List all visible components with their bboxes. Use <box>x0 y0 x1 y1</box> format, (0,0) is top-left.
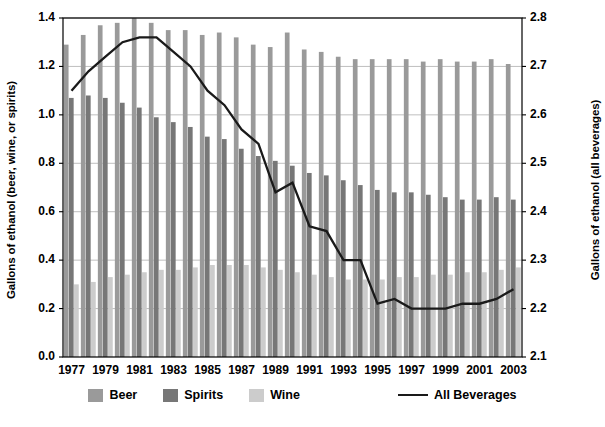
y-tick-label-left: 1.2 <box>21 58 55 72</box>
bar-beer-1995 <box>370 59 375 357</box>
bar-wine-1995 <box>380 280 385 357</box>
bar-beer-1986 <box>217 33 222 357</box>
bar-beer-1977 <box>64 45 69 357</box>
bar-wine-2000 <box>465 272 470 357</box>
bar-wine-1998 <box>431 275 436 357</box>
legend-item-wine: Wine <box>249 388 300 402</box>
legend-item-all-beverages: All Beverages <box>398 388 517 402</box>
bar-spirits-2001 <box>477 200 482 357</box>
y-tick-label-right: 2.6 <box>530 107 570 121</box>
legend-swatch-icon <box>163 389 178 402</box>
bar-beer-1992 <box>319 52 324 357</box>
legend-label: Beer <box>109 388 137 402</box>
bar-spirits-1978 <box>86 95 91 357</box>
bar-spirits-1987 <box>239 149 244 357</box>
bar-spirits-2003 <box>511 200 516 357</box>
chart-legend: BeerSpiritsWineAll Beverages <box>0 388 605 402</box>
legend-label: All Beverages <box>434 388 517 402</box>
bar-beer-2003 <box>506 64 511 357</box>
bar-spirits-1981 <box>137 108 142 357</box>
bar-beer-1982 <box>149 23 154 357</box>
bar-spirits-1988 <box>256 156 261 357</box>
y-tick-label-right: 2.1 <box>530 349 570 363</box>
bar-beer-1997 <box>404 59 409 357</box>
bar-spirits-1979 <box>103 98 108 357</box>
bar-wine-1981 <box>142 272 147 357</box>
bar-beer-2002 <box>489 59 494 357</box>
chart-container: Gallons of ethanol (beer, wine, or spiri… <box>0 0 605 427</box>
bar-spirits-1991 <box>307 173 312 357</box>
y-tick-label-right: 2.4 <box>530 204 570 218</box>
bar-spirits-1999 <box>443 197 448 357</box>
y-tick-label-right: 2.8 <box>530 10 570 24</box>
bar-spirits-2000 <box>460 200 465 357</box>
bar-spirits-1992 <box>324 175 329 357</box>
bar-spirits-1998 <box>426 195 431 357</box>
y-tick-label-left: 1.0 <box>21 107 55 121</box>
y-tick-label-left: 1.4 <box>21 10 55 24</box>
x-tick-label-2003: 2003 <box>491 363 537 377</box>
bar-spirits-1990 <box>290 166 295 357</box>
bar-beer-1979 <box>98 25 103 357</box>
y-tick-label-left: 0.4 <box>21 252 55 266</box>
bar-spirits-1986 <box>222 139 227 357</box>
bar-wine-1984 <box>193 267 198 357</box>
bar-wine-1997 <box>414 277 419 357</box>
bar-wine-1989 <box>278 270 283 357</box>
bar-spirits-1995 <box>375 190 380 357</box>
y-tick-label-left: 0.6 <box>21 204 55 218</box>
bar-wine-1986 <box>227 265 232 357</box>
bar-beer-1991 <box>302 49 307 357</box>
bar-spirits-2002 <box>494 197 499 357</box>
bar-spirits-1984 <box>188 127 193 357</box>
bar-spirits-1994 <box>358 185 363 357</box>
bar-beer-1981 <box>132 18 137 357</box>
legend-label: Wine <box>270 388 300 402</box>
legend-item-spirits: Spirits <box>163 388 223 402</box>
bar-beer-1983 <box>166 30 171 357</box>
bar-beer-1993 <box>336 57 341 357</box>
legend-swatch-icon <box>88 389 103 402</box>
bar-spirits-1997 <box>409 192 414 357</box>
bar-beer-1984 <box>183 30 188 357</box>
bar-beer-2000 <box>455 62 460 357</box>
legend-line-icon <box>398 394 428 396</box>
bar-wine-2003 <box>516 267 521 357</box>
y-tick-label-right: 2.7 <box>530 58 570 72</box>
bar-wine-1992 <box>329 277 334 357</box>
y-tick-label-left: 0.0 <box>21 349 55 363</box>
legend-item-beer: Beer <box>88 388 137 402</box>
bar-beer-1989 <box>268 47 273 357</box>
bar-beer-1988 <box>251 45 256 357</box>
bar-wine-1980 <box>125 275 130 357</box>
bar-beer-1999 <box>438 59 443 357</box>
bar-beer-1980 <box>115 23 120 357</box>
bar-wine-1979 <box>108 277 113 357</box>
bar-wine-1988 <box>261 267 266 357</box>
bar-beer-1987 <box>234 37 239 357</box>
bar-wine-1994 <box>363 280 368 357</box>
bar-spirits-1980 <box>120 103 125 357</box>
y-tick-label-left: 0.2 <box>21 301 55 315</box>
bar-beer-1990 <box>285 33 290 357</box>
bar-spirits-1993 <box>341 180 346 357</box>
bar-beer-1998 <box>421 62 426 357</box>
y-tick-label-left: 0.8 <box>21 155 55 169</box>
bar-beer-2001 <box>472 62 477 357</box>
bar-wine-2001 <box>482 272 487 357</box>
bar-wine-1991 <box>312 275 317 357</box>
bar-wine-1993 <box>346 280 351 357</box>
legend-swatch-icon <box>249 389 264 402</box>
y-tick-label-right: 2.2 <box>530 301 570 315</box>
bar-beer-1996 <box>387 59 392 357</box>
bar-wine-1996 <box>397 277 402 357</box>
bar-beer-1978 <box>81 35 86 357</box>
bar-wine-1982 <box>159 270 164 357</box>
y-tick-label-right: 2.5 <box>530 155 570 169</box>
bar-wine-1999 <box>448 275 453 357</box>
bar-wine-1983 <box>176 270 181 357</box>
bar-wine-1985 <box>210 265 215 357</box>
bar-wine-1977 <box>74 284 79 357</box>
legend-label: Spirits <box>184 388 223 402</box>
bar-wine-1987 <box>244 265 249 357</box>
